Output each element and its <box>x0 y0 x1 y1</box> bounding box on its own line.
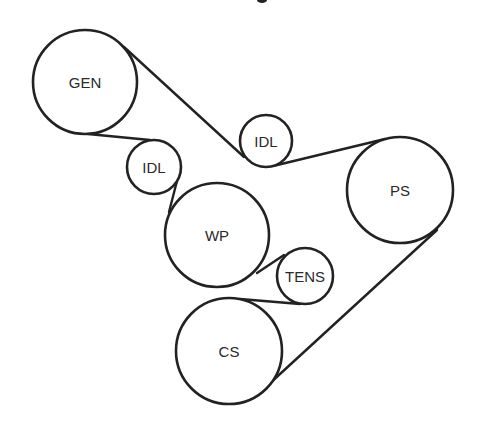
pulley-label: IDL <box>254 133 277 150</box>
pulley-ps: PS <box>347 137 453 243</box>
pulley-label: PS <box>390 182 410 199</box>
pulley-label: CS <box>219 343 240 360</box>
pulley-label: WP <box>205 227 229 244</box>
pulley-group: GENIDLIDLWPTENSCSPS <box>33 30 453 404</box>
pulley-label: IDL <box>142 159 165 176</box>
pulley-cs: CS <box>176 298 282 404</box>
pulley-wp: WP <box>165 183 269 287</box>
pulley-tens: TENS <box>277 248 333 304</box>
belt-segment-gen-to-idl2 <box>124 47 244 157</box>
pulley-idl2: IDL <box>240 115 292 167</box>
belt-segment-idl1-to-gen <box>88 134 150 140</box>
pulley-gen: GEN <box>33 30 137 134</box>
pulley-label: TENS <box>285 268 325 285</box>
belt-routing-diagram: GENIDLIDLWPTENSCSPS <box>0 0 480 427</box>
pulley-label: GEN <box>69 74 102 91</box>
title-fragment <box>257 0 267 3</box>
pulley-idl1: IDL <box>127 140 181 194</box>
